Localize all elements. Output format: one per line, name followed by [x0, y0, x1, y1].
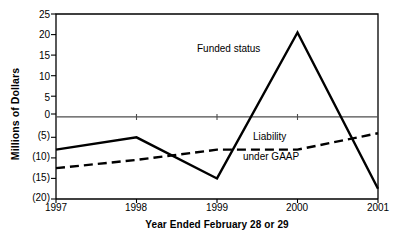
x-tick-label-1997: 1997: [26, 202, 86, 213]
x-tick-label-1999: 1999: [187, 202, 247, 213]
y-tick-label-neg10: (10): [4, 151, 50, 162]
series-label-funded-status: Funded status: [197, 43, 260, 55]
x-axis-title: Year Ended February 28 or 29: [56, 219, 378, 230]
x-tick-label-2001: 2001: [348, 202, 397, 213]
series-label-liability-line1: Liability: [253, 131, 286, 143]
y-tick-label-5: 5: [4, 92, 50, 103]
plot-area: [0, 0, 397, 236]
y-axis-ticks: [51, 14, 56, 199]
y-tick-label-25: 25: [4, 9, 50, 20]
y-tick-label-15: 15: [4, 50, 50, 61]
plot-frame: [56, 14, 378, 199]
series-label-liability-line2: under GAAP: [243, 151, 299, 163]
x-tick-label-2000: 2000: [267, 202, 327, 213]
x-tick-label-1998: 1998: [106, 202, 166, 213]
y-tick-label-neg5: (5): [4, 130, 50, 141]
series-line-liability-under-gaap: [56, 133, 378, 168]
y-tick-label-0: 0: [4, 109, 50, 120]
y-tick-label-neg15: (15): [4, 172, 50, 183]
series-line-funded-status: [56, 33, 378, 189]
chart-container: Millions of Dollars 25 20 15 10 5 0 (5) …: [0, 0, 397, 236]
y-tick-label-10: 10: [4, 71, 50, 82]
y-tick-label-20: 20: [4, 29, 50, 40]
